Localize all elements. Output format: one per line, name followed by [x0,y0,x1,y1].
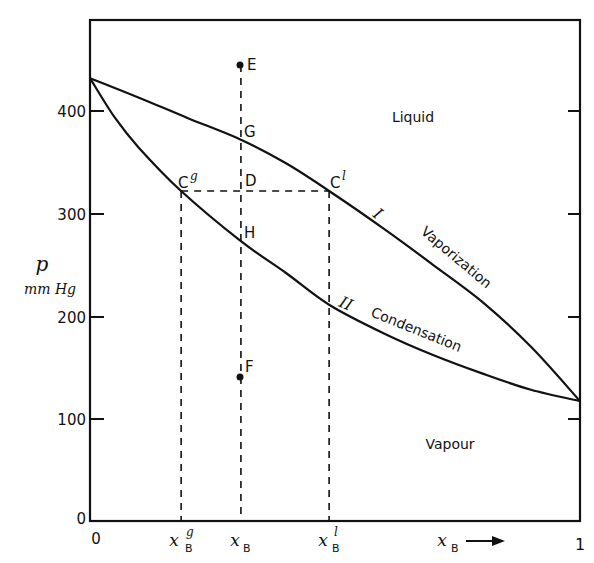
y-tick-200: 200 [57,309,86,327]
label-Cl: C l [330,169,346,192]
label-E: E [247,56,256,74]
svg-text:C: C [178,174,188,192]
label-Cg: C g [178,169,198,192]
y-axis-ticks [90,111,580,419]
y-axis-label-p: p [36,252,49,276]
y-axis-units: mm Hg [24,281,76,297]
svg-text:C: C [330,174,340,192]
plot-frame [90,20,580,521]
svg-text:B: B [332,542,340,555]
y-tick-400: 400 [57,103,86,121]
label-F: F [245,358,254,376]
curve1-roman-label: I [369,204,387,224]
svg-text:x: x [230,530,240,550]
svg-text:l: l [334,525,338,539]
x-axis-label: x B [437,530,505,555]
point-F-marker [237,374,244,381]
arrow-head-icon [492,536,505,546]
label-D: D [245,172,257,190]
x-tick-0: 0 [91,530,101,548]
x-tick-xBl: x B l [318,525,339,555]
phase-diagram: 400 300 200 100 0 p mm Hg 0 1 x B g x B … [0,0,594,563]
svg-text:g: g [186,525,194,539]
svg-text:l: l [342,169,346,183]
svg-text:x: x [437,530,447,550]
vaporization-curve-I [90,78,580,401]
y-tick-0: 0 [76,510,86,528]
svg-text:B: B [451,542,459,555]
svg-text:x: x [169,530,179,550]
y-tick-100: 100 [57,411,86,429]
x-tick-xB: x B [230,530,250,555]
curve2-roman-label: II [335,292,356,315]
region-liquid-label: Liquid [392,109,434,125]
svg-text:B: B [185,542,193,555]
region-vapour-label: Vapour [425,436,474,452]
label-H: H [244,224,255,242]
svg-text:g: g [190,169,198,183]
x-tick-1: 1 [575,535,585,554]
x-tick-xBg: x B g [169,525,194,555]
condensation-curve-II [90,78,580,401]
y-tick-300: 300 [57,206,86,224]
label-G: G [244,123,256,141]
point-E-marker [237,62,244,69]
svg-text:x: x [318,530,328,550]
svg-text:B: B [243,542,251,555]
